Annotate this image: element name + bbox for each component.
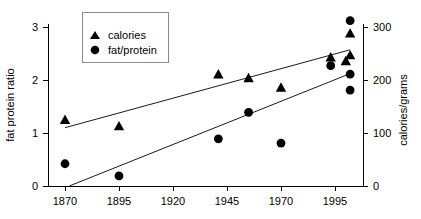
- left-tick-label-2: 2: [32, 74, 38, 86]
- legend-label-calories: calories: [108, 29, 146, 41]
- data-point-calories: [114, 121, 124, 130]
- chart-container: 0 1 2 3 0 100 200 300 1870 1895 1920: [0, 0, 421, 219]
- x-axis-ticks: 1870 1895 1920 1945 1970 1995: [53, 186, 347, 207]
- data-point-fat-protein: [346, 86, 355, 95]
- x-tick-label-1945: 1945: [215, 195, 239, 207]
- x-tick-label-1970: 1970: [269, 195, 293, 207]
- left-tick-label-0: 0: [32, 180, 38, 192]
- x-tick-label-1870: 1870: [53, 195, 77, 207]
- left-tick-label-3: 3: [32, 21, 38, 33]
- data-point-calories: [325, 52, 335, 61]
- right-tick-label-100: 100: [373, 127, 391, 139]
- fat-protein-trend: [69, 74, 350, 186]
- left-tick-label-1: 1: [32, 127, 38, 139]
- data-point-fat-protein: [61, 159, 70, 168]
- data-point-fat-protein: [326, 61, 335, 70]
- data-point-calories: [276, 82, 286, 91]
- data-point-fat-protein: [346, 70, 355, 79]
- data-point-fat-protein: [346, 16, 355, 25]
- data-point-calories: [213, 69, 223, 78]
- data-point-calories: [243, 73, 253, 82]
- legend-circle-icon: [91, 46, 100, 55]
- y-axis-title: fat protein ratio: [4, 68, 16, 141]
- x-tick-label-1995: 1995: [323, 195, 347, 207]
- data-point-fat-protein: [277, 139, 286, 148]
- right-tick-label-0: 0: [373, 180, 379, 192]
- data-point-fat-protein: [214, 134, 223, 143]
- data-point-fat-protein: [115, 172, 124, 181]
- right-axis-ticks: 0 100 200 300: [363, 21, 391, 192]
- scatter-chart: 0 1 2 3 0 100 200 300 1870 1895 1920: [0, 0, 421, 219]
- x-tick-label-1895: 1895: [107, 195, 131, 207]
- data-point-calories: [60, 115, 70, 124]
- right-tick-label-200: 200: [373, 74, 391, 86]
- x-tick-label-1920: 1920: [161, 195, 185, 207]
- legend: calories fat/protein: [82, 12, 168, 62]
- data-point-fat-protein: [244, 108, 253, 117]
- y2-axis-title: calories/grams: [397, 74, 409, 146]
- legend-label-fat-protein: fat/protein: [108, 44, 157, 56]
- right-tick-label-300: 300: [373, 21, 391, 33]
- left-axis-ticks: 0 1 2 3: [32, 21, 48, 192]
- data-point-calories: [345, 50, 355, 59]
- data-point-calories: [345, 28, 355, 37]
